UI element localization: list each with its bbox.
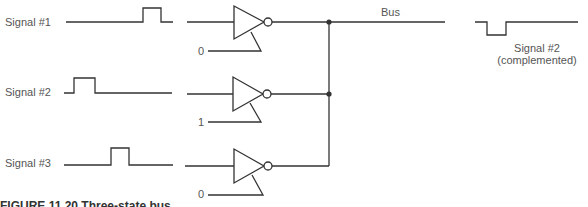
signal-2-waveform [64,78,172,93]
signal-1-waveform [66,8,173,22]
gate-3-buffer [234,149,264,183]
circuit-diagram [0,0,588,207]
figure-caption: FIGURE 11.20 Three-state bus [0,199,171,207]
gate-1-buffer [234,6,264,39]
gate-2-buffer [233,77,263,111]
signal-3-waveform [64,148,173,165]
output-waveform [475,22,578,35]
